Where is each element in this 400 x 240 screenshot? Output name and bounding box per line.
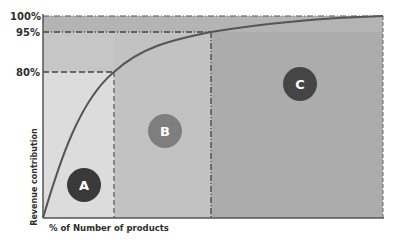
y-tick-80: 80% xyxy=(16,67,40,78)
y-axis-title: Revenue contribution xyxy=(30,128,39,226)
upper-region-b xyxy=(114,32,211,72)
upper-region-a xyxy=(43,32,114,72)
zone-a-label: A xyxy=(79,178,89,193)
pareto-chart: 100% 95% 80% % of Number of products Rev… xyxy=(0,0,400,240)
x-axis-title: % of Number of products xyxy=(49,223,169,233)
zone-b-label: B xyxy=(160,124,170,139)
zone-c-label: C xyxy=(295,77,305,92)
y-tick-95: 95% xyxy=(16,27,40,38)
zone-c-area xyxy=(211,16,383,218)
y-tick-100: 100% xyxy=(10,11,41,22)
